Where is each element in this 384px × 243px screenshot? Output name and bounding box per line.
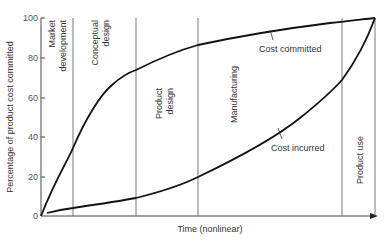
phase-product-use: Product use [355,136,365,184]
y-tick-60: 60 [28,93,38,103]
cost-incurred-annotation: Cost incurred [271,143,325,153]
phase-conceptual-line2: design [101,20,111,47]
y-tick-100: 100 [23,13,38,23]
y-tick-20: 20 [28,172,38,182]
y-axis-label: Percentage of product cost committed [5,41,15,193]
phase-product-design-line1: Product [154,88,164,120]
cost-commitment-chart: Percentage of product cost committed 100… [0,0,384,243]
phase-manufacturing: Manufacturing [229,66,239,123]
y-tick-80: 80 [28,53,38,63]
cost-committed-annotation: Cost committed [259,44,322,54]
phase-product-design-line2: design [165,88,175,115]
phase-dividers [73,18,375,216]
y-tick-0: 0 [33,211,38,221]
phase-conceptual-line1: Conceptual [90,20,100,66]
x-axis-label: Time (nonlinear) [177,224,242,234]
x-axis-arrow-icon [370,213,378,219]
y-ticks: 100 80 60 40 20 0 [23,13,45,221]
phase-market-line1: Market [47,20,57,48]
phase-market-line2: development [58,20,68,72]
y-tick-40: 40 [28,132,38,142]
